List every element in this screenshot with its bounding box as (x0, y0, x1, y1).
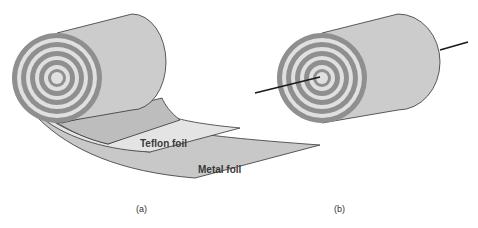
lead-wire-right (440, 42, 468, 50)
caption-b: (b) (334, 204, 345, 214)
diagram-canvas (0, 0, 478, 228)
roll-a-face (12, 33, 102, 123)
panel-a-roll (12, 14, 320, 178)
panel-b-roll (255, 14, 468, 123)
caption-a: (a) (136, 204, 147, 214)
metal-foil-label: Metal foil (198, 164, 241, 175)
roll-b-face (277, 33, 367, 123)
teflon-foil-label: Teflon foil (140, 138, 187, 149)
